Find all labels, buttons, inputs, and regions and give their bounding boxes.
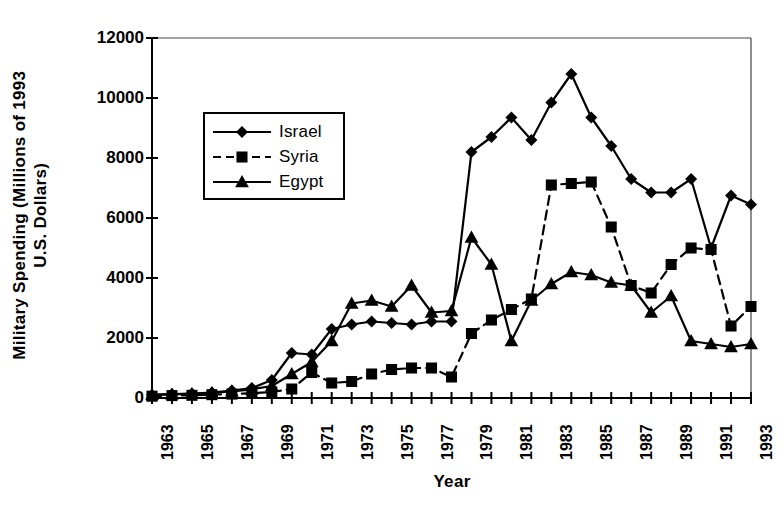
square-marker [666, 259, 677, 270]
triangle-marker [544, 277, 558, 289]
square-marker [236, 151, 247, 162]
y-tick-label: 2000 [106, 328, 144, 348]
y-tick-label: 8000 [106, 148, 144, 168]
square-marker [606, 221, 617, 232]
series-syria [146, 176, 756, 401]
square-marker [386, 364, 397, 375]
triangle-marker [465, 231, 479, 243]
legend-swatch-egypt [211, 171, 273, 193]
square-marker [646, 287, 657, 298]
square-marker [486, 314, 497, 325]
square-marker [566, 178, 577, 189]
legend-item-syria: Syria [211, 144, 337, 169]
diamond-marker [745, 199, 757, 211]
diamond-marker [725, 190, 737, 202]
y-axis-title-line2: U.S. Dollars) [32, 163, 51, 268]
triangle-marker [365, 294, 379, 306]
square-marker [326, 377, 337, 388]
square-marker [406, 362, 417, 373]
square-marker [506, 304, 517, 315]
triangle-marker [564, 265, 578, 277]
diamond-marker [346, 319, 358, 331]
legend-label: Israel [273, 122, 322, 142]
diamond-marker [645, 187, 657, 199]
legend-swatch-syria [211, 146, 273, 168]
legend-label: Egypt [273, 172, 323, 192]
triangle-marker [285, 367, 299, 379]
y-axis-tick-labels: 020004000600080001000012000 [52, 0, 144, 430]
triangle-marker [445, 304, 459, 316]
triangle-marker [684, 334, 698, 346]
diamond-marker [386, 317, 398, 329]
square-marker [466, 328, 477, 339]
square-marker [306, 367, 317, 378]
square-marker [706, 244, 717, 255]
square-marker [726, 320, 737, 331]
triangle-marker [664, 289, 678, 301]
diamond-marker [406, 319, 418, 331]
diamond-marker [236, 126, 248, 138]
square-marker [446, 371, 457, 382]
square-marker [346, 376, 357, 387]
y-tick-label: 12000 [97, 28, 144, 48]
triangle-marker [405, 279, 419, 291]
diamond-marker [446, 316, 458, 328]
military-spending-line-chart: Military Spending (Millions of 1993 U.S.… [0, 0, 783, 511]
square-marker [366, 368, 377, 379]
legend-item-egypt: Egypt [211, 169, 337, 194]
legend-swatch-israel [211, 121, 273, 143]
diamond-marker [366, 316, 378, 328]
square-marker [426, 362, 437, 373]
square-marker [546, 179, 557, 190]
y-tick-label: 10000 [97, 88, 144, 108]
square-marker [745, 301, 756, 312]
diamond-marker [665, 187, 677, 199]
square-marker [286, 383, 297, 394]
triangle-marker [744, 337, 758, 349]
square-marker [686, 242, 697, 253]
x-axis-title: Year [152, 472, 752, 492]
diamond-marker [625, 173, 637, 185]
y-tick-label: 6000 [106, 208, 144, 228]
legend-label: Syria [273, 147, 319, 167]
y-axis-title-line1: Military Spending (Millions of 1993 [11, 70, 30, 359]
chart-legend: IsraelSyriaEgypt [203, 112, 345, 200]
legend-item-israel: Israel [211, 119, 337, 144]
diamond-marker [685, 173, 697, 185]
series-line-syria [152, 182, 751, 396]
y-tick-label: 4000 [106, 268, 144, 288]
triangle-marker [505, 334, 519, 346]
y-tick-label: 0 [135, 388, 144, 408]
square-marker [586, 176, 597, 187]
